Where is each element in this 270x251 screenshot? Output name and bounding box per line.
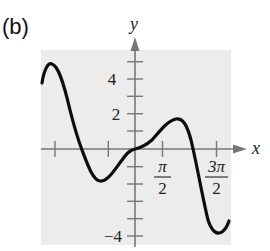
svg-text:2: 2	[212, 179, 221, 198]
y-tick-label-2: 2	[112, 105, 121, 124]
function-graph: 4 2 −4 π 2 3π 2 x y	[0, 0, 270, 251]
y-axis-arrow-icon	[131, 37, 140, 51]
y-axis-label: y	[128, 14, 138, 34]
svg-text:π: π	[158, 157, 167, 176]
x-axis-label: x	[251, 138, 260, 158]
y-tick-label-4: 4	[108, 70, 117, 89]
x-axis-arrow-icon	[233, 145, 247, 154]
svg-text:2: 2	[158, 179, 167, 198]
y-tick-label-neg4: −4	[104, 227, 123, 246]
svg-text:3π: 3π	[207, 157, 226, 176]
